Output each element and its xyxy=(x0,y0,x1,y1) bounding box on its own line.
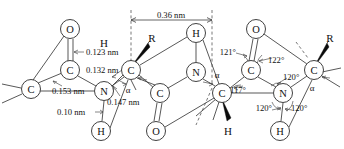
bond-angle-label-117: 117° xyxy=(230,85,247,95)
bond-c3-o2-b xyxy=(159,103,162,121)
side-chain-label-r1: R xyxy=(148,32,156,44)
bond-h2-ca1 xyxy=(140,37,187,65)
leader-alpha2 xyxy=(203,82,213,86)
atom-o1: O xyxy=(61,20,80,39)
bond-c3-n2 xyxy=(168,77,187,88)
atom-ca3: C xyxy=(305,61,324,80)
atom-label: H xyxy=(224,125,232,137)
atom-ca1: C xyxy=(122,61,141,80)
bond-angle-label-120-upper: 120° xyxy=(283,72,300,82)
atom-h4: H xyxy=(271,122,290,141)
bond-c3-o2-a xyxy=(154,103,157,121)
bond-chain-entry xyxy=(2,84,21,88)
leader-0147 xyxy=(113,86,120,96)
atom-n3: N xyxy=(274,84,293,103)
atom-h2: H xyxy=(187,24,206,43)
dashed-hash-ca3 xyxy=(296,42,308,58)
alpha-label-3: α xyxy=(310,83,315,93)
atom-label: C xyxy=(127,65,134,76)
bond-angle-label-121: 121° xyxy=(220,47,237,57)
atom-label: C xyxy=(218,88,225,99)
atom-label: H xyxy=(276,126,284,137)
bond-ca3-next-2 xyxy=(322,68,341,72)
bond-n3-h4 xyxy=(281,103,283,121)
bond-ca2-fan-a xyxy=(196,99,216,116)
atom-h1: H xyxy=(92,122,111,141)
atom-label: C xyxy=(27,84,34,95)
atom-label: C xyxy=(247,65,254,76)
bond-c4-o3-b xyxy=(254,39,258,61)
atom-c1: C xyxy=(61,61,80,80)
bond-c4-o3-a xyxy=(249,39,253,61)
bond-angle-label-122: 122° xyxy=(268,55,285,65)
atom-label: H xyxy=(97,126,105,137)
diagram-canvas: O C C N H C C xyxy=(0,0,344,149)
atom-o3: O xyxy=(247,20,266,39)
atom-n2: N xyxy=(187,63,206,82)
side-chain-label-r2: R xyxy=(326,32,334,44)
atom-label: C xyxy=(156,88,163,99)
bond-length-label-0132: 0.132 nm xyxy=(86,65,119,75)
bond-c1-n1 xyxy=(78,76,96,86)
atom-label: N xyxy=(279,88,287,99)
bond-o2-ca2 xyxy=(165,98,214,127)
atom-label: H xyxy=(192,28,200,39)
atom-label: O xyxy=(66,24,74,35)
leader-010 xyxy=(95,110,103,114)
atom-h3: H xyxy=(224,125,232,137)
atom-label: C xyxy=(66,65,73,76)
dashed-torsion-ca2 xyxy=(196,88,212,125)
bond-c4-n3 xyxy=(258,77,276,87)
bond-angle-label-120-right: 120° xyxy=(291,103,308,113)
bond-length-label-0153: 0.153 nm xyxy=(52,86,85,96)
arc-122 xyxy=(257,55,262,64)
bond-angle-label-120-left: 120° xyxy=(256,103,273,113)
alpha-label-2: α xyxy=(215,70,220,80)
atom-label: C xyxy=(310,65,317,76)
span-length-label-036: 0.36 nm xyxy=(157,10,185,20)
atom-label: O xyxy=(152,126,160,137)
bond-chain-entry-2 xyxy=(2,94,22,103)
bond-length-label-010: 0.10 nm xyxy=(57,107,85,117)
alpha-label-1: α xyxy=(126,85,131,95)
atom-o2: O xyxy=(147,122,166,141)
atom-label: N xyxy=(100,86,108,97)
bond-c2-o1 xyxy=(33,36,64,80)
atom-label: N xyxy=(192,67,200,78)
leader-121 xyxy=(236,53,247,58)
leader-0123 xyxy=(74,50,84,54)
bond-length-label-0123: 0.123 nm xyxy=(86,47,119,57)
atom-ca2: C xyxy=(213,84,232,103)
atom-c4: C xyxy=(242,61,261,80)
bond-c2-c1 xyxy=(38,73,62,83)
chemical-structure-svg: O C C N H C C xyxy=(0,0,344,149)
atom-c3: C xyxy=(151,84,170,103)
atom-c2: C xyxy=(22,80,41,99)
length-leaders xyxy=(53,50,330,114)
atom-label: O xyxy=(252,24,260,35)
bond-length-label-0147: 0.147 nm xyxy=(107,97,140,107)
bond-n1-h1 xyxy=(102,101,104,121)
bond-ca1-aux2 xyxy=(131,80,136,90)
bond-ca2-fan-b xyxy=(213,102,219,120)
